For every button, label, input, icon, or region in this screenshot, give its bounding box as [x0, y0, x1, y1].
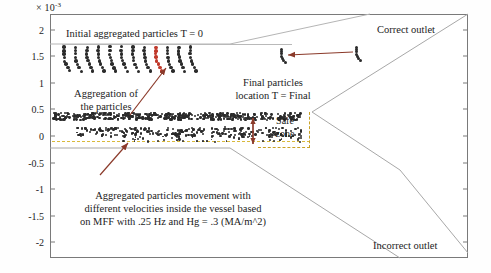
particle-dot: [191, 114, 194, 117]
particle-dot: [128, 115, 130, 117]
particle-dot: [170, 118, 172, 120]
particle-dot: [64, 116, 67, 119]
particle-dot: [158, 134, 160, 136]
particle-dot: [108, 49, 111, 52]
particle-dot: [77, 127, 79, 129]
particle-dot: [148, 127, 150, 129]
particle-dot: [134, 133, 136, 135]
initial-particles-label: Initial aggregated particles T = 0: [66, 27, 203, 40]
particle-dot: [233, 136, 235, 138]
particle-dot: [224, 133, 226, 135]
particle-dot: [153, 113, 155, 115]
particle-dot: [159, 115, 161, 117]
particle-dot: [185, 116, 187, 118]
particle-dot: [120, 45, 123, 48]
particle-dot: [196, 131, 199, 134]
particle-dot: [85, 117, 88, 120]
particle-dot: [227, 118, 230, 121]
particle-dot: [238, 138, 240, 140]
particle-dot: [154, 55, 157, 58]
particle-dot: [199, 116, 202, 119]
particle-dot: [68, 116, 71, 119]
particle-dot: [99, 127, 101, 129]
particle-dot: [209, 114, 212, 117]
particle-dot: [137, 138, 139, 140]
particle-dot: [188, 128, 190, 130]
particle-dot: [108, 45, 111, 48]
particle-dot: [182, 140, 184, 142]
particle-dot: [81, 128, 83, 130]
particle-dot: [128, 118, 130, 120]
particle-dot: [132, 59, 135, 62]
particle-dot: [82, 133, 85, 136]
particle-dot: [135, 66, 138, 69]
particle-dot: [359, 59, 362, 62]
particle-dot: [105, 134, 107, 136]
figure-root: × 10-3 21.510.50-0.5-1-1.5-2: [0, 0, 491, 273]
particle-dot: [101, 130, 104, 133]
particle-dot: [110, 135, 112, 137]
particle-dot: [89, 131, 91, 133]
particle-dot: [54, 112, 56, 114]
particle-dot: [202, 140, 204, 142]
particle-dot: [134, 140, 136, 142]
particle-dot: [164, 134, 166, 136]
particle-dot: [211, 127, 214, 130]
incorrect-outlet-label: Incorrect outlet: [373, 239, 437, 252]
particle-dot: [74, 52, 77, 55]
particle-dot: [89, 114, 91, 116]
safe-zone-label: Safe zone: [262, 114, 308, 140]
particle-dot: [68, 69, 71, 72]
particle-dot: [190, 118, 192, 120]
particle-dot: [211, 113, 214, 116]
particle-dot: [137, 117, 139, 119]
particle-dot: [140, 132, 143, 135]
correct-outlet-label: Correct outlet: [377, 23, 435, 36]
particle-dot: [179, 133, 181, 135]
particle-dot: [217, 118, 220, 121]
particle-dot: [176, 139, 178, 141]
particle-dot: [180, 129, 183, 132]
particle-dot: [102, 69, 105, 72]
particle-dot: [162, 136, 164, 138]
particle-dot: [126, 70, 129, 73]
particle-dot: [171, 133, 173, 135]
safe-zone-label-line2: zone: [262, 127, 308, 140]
final-particles-label: Final particles location T = Final: [218, 76, 328, 102]
particle-dot: [102, 114, 104, 116]
particle-dot: [62, 45, 65, 48]
particle-dot: [160, 69, 163, 72]
particle-dot: [144, 127, 146, 129]
particle-dot: [174, 132, 177, 135]
particle-dot: [202, 133, 204, 135]
particle-dot: [171, 137, 173, 139]
particle-dot: [251, 135, 253, 137]
particle-dot: [140, 127, 142, 129]
particle-dot: [149, 69, 152, 72]
particle-dot: [244, 113, 246, 115]
particle-dot: [130, 128, 133, 131]
particle-dot: [53, 117, 56, 120]
particle-dot: [194, 69, 197, 72]
particle-dot: [102, 133, 104, 135]
particle-dot: [254, 133, 257, 136]
particle-dot: [80, 70, 83, 73]
particle-dot: [132, 132, 134, 134]
particle-dot: [242, 136, 244, 138]
particle-dot: [166, 52, 169, 55]
particle-dot: [61, 115, 63, 117]
particle-dot: [84, 127, 86, 129]
particle-dot: [91, 69, 94, 72]
caption-line3: on MFF with .25 Hz and Hg = .3 (MA/m^2): [52, 215, 294, 228]
particle-dot: [122, 140, 124, 142]
particle-dot: [178, 55, 181, 58]
particle-dot: [176, 136, 178, 138]
particle-dot: [214, 141, 216, 143]
particle-dot: [177, 116, 180, 119]
particle-dot: [149, 117, 151, 119]
final-particles-label-line2: location T = Final: [218, 89, 328, 102]
particle-dot: [109, 113, 112, 116]
particle-dot: [171, 69, 174, 72]
particle-dot: [164, 118, 166, 120]
aggregation-label: Aggregation of the particles: [58, 87, 154, 113]
